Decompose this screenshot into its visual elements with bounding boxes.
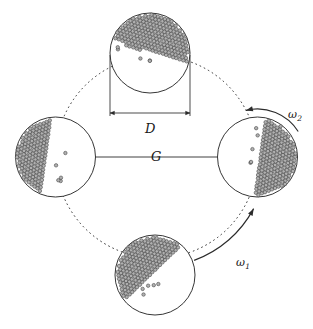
grinding-ball (122, 294, 125, 297)
grinding-ball (36, 140, 39, 143)
grinding-ball (123, 288, 126, 291)
grinding-ball (260, 169, 263, 172)
grinding-ball (135, 260, 138, 263)
grinding-ball (166, 47, 169, 50)
grinding-ball (273, 140, 276, 143)
grinding-ball (126, 260, 129, 263)
grinding-ball (281, 134, 284, 137)
grinding-ball (129, 258, 132, 261)
grinding-ball (22, 176, 25, 179)
grinding-ball-stray (141, 287, 144, 290)
grinding-ball (167, 51, 170, 54)
grinding-ball (264, 120, 267, 123)
grinding-ball (283, 182, 286, 185)
grinding-ball (266, 146, 269, 149)
grinding-ball (123, 250, 126, 253)
grinding-ball (140, 242, 143, 245)
grinding-ball (46, 136, 49, 139)
grinding-ball-stray (152, 283, 155, 286)
grinding-ball-stray (64, 151, 67, 154)
grinding-ball (257, 193, 260, 196)
grinding-ball (124, 27, 127, 30)
grinding-ball (184, 40, 187, 43)
dimension-arrowhead-left (110, 111, 115, 115)
grinding-ball (287, 174, 290, 177)
grinding-ball (21, 136, 24, 139)
grinding-ball (267, 186, 270, 189)
grinding-ball (119, 259, 122, 262)
grinding-ball (129, 270, 132, 273)
grinding-ball (285, 148, 288, 151)
grinding-ball (283, 162, 286, 165)
grinding-ball (288, 144, 291, 147)
grinding-ball (48, 119, 51, 122)
omega1-subscript: 1 (245, 262, 250, 271)
grinding-ball (24, 158, 27, 161)
grinding-ball-stray (142, 293, 145, 296)
grinding-ball (287, 135, 290, 138)
grinding-ball-stray (256, 134, 259, 137)
grinding-ball (174, 24, 177, 27)
grinding-ball (286, 138, 289, 141)
grinding-ball (141, 271, 144, 274)
grinding-ball-stray (139, 57, 142, 60)
grinding-ball (48, 126, 51, 129)
grinding-ball (38, 150, 41, 153)
grinding-ball (116, 34, 119, 37)
grinding-ball (147, 270, 150, 273)
grinding-ball (135, 269, 138, 272)
grinding-ball (292, 142, 295, 145)
grinding-ball (157, 256, 160, 259)
grinding-ball (123, 285, 126, 288)
omega1-arc-head (248, 209, 254, 216)
grinding-ball (160, 257, 163, 260)
grinding-ball (288, 147, 291, 150)
grinding-ball (134, 266, 137, 269)
grinding-ball (25, 175, 28, 178)
grinding-ball (133, 40, 136, 43)
grinding-ball (256, 173, 259, 176)
grinding-ball (269, 171, 272, 174)
diameter-label: D (145, 122, 155, 135)
grinding-ball (269, 132, 272, 135)
grinding-ball (40, 158, 43, 161)
grinding-ball (138, 15, 141, 18)
grinding-ball (278, 174, 281, 177)
grinding-ball-stray (249, 160, 252, 163)
grinding-ball (185, 60, 188, 63)
grinding-ball (123, 24, 126, 27)
grinding-ball (132, 37, 135, 40)
grinding-ball (278, 178, 281, 181)
grinding-ball (139, 39, 142, 42)
grinding-ball (143, 275, 146, 278)
grinding-ball (273, 186, 276, 189)
grinding-ball (149, 42, 152, 45)
grinding-ball (277, 181, 280, 184)
grinding-ball (140, 251, 143, 254)
grinding-ball (267, 119, 270, 122)
grinding-ball (277, 158, 280, 161)
grinding-ball (144, 14, 147, 17)
grinding-ball (278, 131, 281, 134)
omega2-label: ω2 (288, 109, 302, 120)
grinding-ball (138, 283, 141, 286)
grinding-ball (130, 261, 133, 264)
grinding-ball (16, 148, 19, 151)
grinding-ball (36, 164, 39, 167)
grinding-ball (20, 143, 23, 146)
grinding-ball (40, 135, 43, 138)
omega1-label: ω1 (236, 257, 250, 268)
grinding-ball (183, 37, 186, 40)
grinding-ball (184, 56, 187, 59)
grinding-ball (45, 147, 48, 150)
grinding-ball (133, 250, 136, 253)
grinding-ball (125, 295, 128, 298)
grinding-ball (150, 13, 153, 16)
grinding-ball (271, 157, 274, 160)
grinding-ball (167, 35, 170, 38)
grinding-ball (292, 146, 295, 149)
grinding-ball (274, 133, 277, 136)
grinding-ball (259, 152, 262, 155)
grinding-ball (120, 288, 123, 291)
grinding-ball (153, 46, 156, 49)
